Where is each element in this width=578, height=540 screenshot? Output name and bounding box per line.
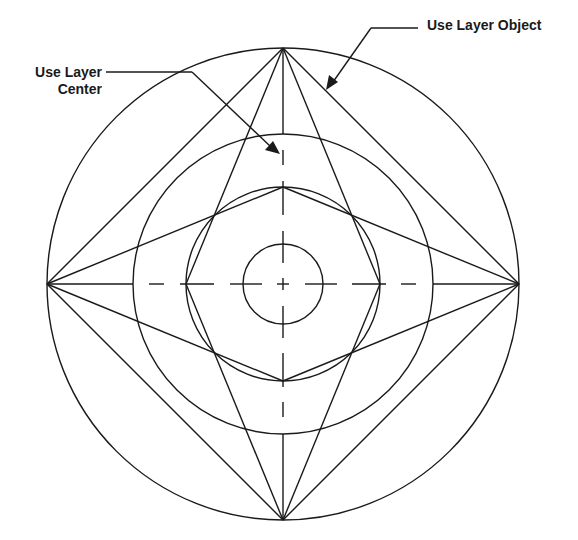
label-use-layer-center: Use Layer Center bbox=[22, 64, 102, 98]
leader-use-layer-center bbox=[106, 72, 280, 154]
drawing-canvas: Use Layer Object Use Layer Center bbox=[0, 0, 578, 540]
label-use-layer-object: Use Layer Object bbox=[427, 17, 541, 34]
label-use-layer-center-line1: Use Layer bbox=[22, 64, 102, 81]
label-use-layer-center-line2: Center bbox=[22, 81, 102, 98]
